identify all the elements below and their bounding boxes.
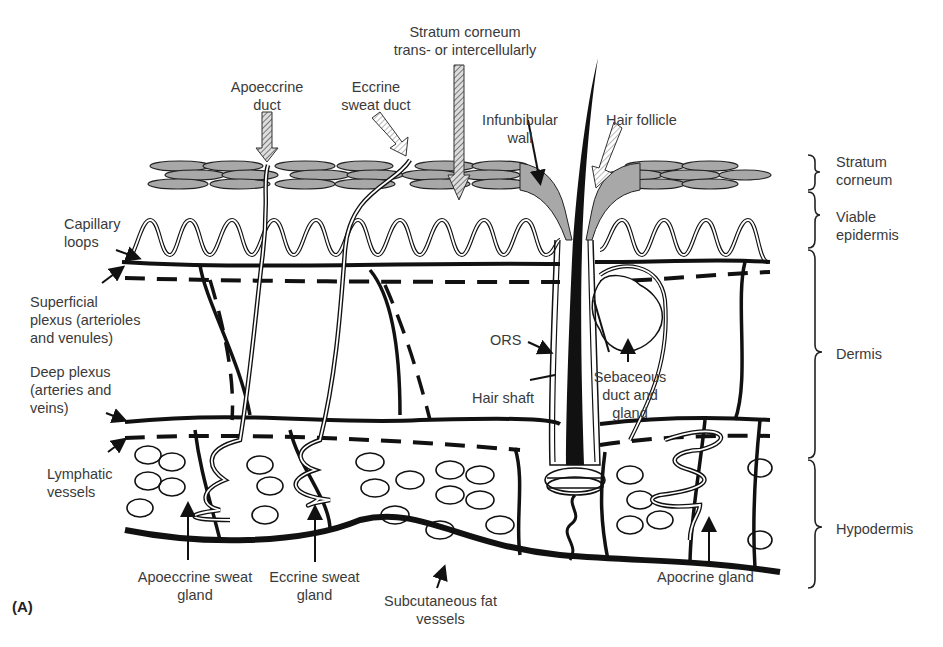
layer-dermis: Dermis: [836, 345, 882, 363]
skin-diagram-art: [0, 0, 943, 647]
label-stratum-corneum-route: Stratum corneum trans- or intercellularl…: [370, 23, 560, 59]
eccrine-duct-arrow: [372, 112, 408, 156]
label-eccrine-sweat-gland: Eccrine sweat gland: [262, 568, 367, 604]
label-apoeccrine-duct: Apoeccrine duct: [222, 78, 312, 114]
layer-viable-epidermis: Viable epidermis: [836, 208, 899, 244]
label-superficial-plexus: Superficial plexus (arterioles and venul…: [30, 293, 140, 347]
infundibular-wall-left: [520, 163, 572, 240]
stratum-corneum-arrow: [448, 65, 470, 200]
label-deep-plexus: Deep plexus (arteries and veins): [30, 363, 111, 417]
hair-bulb: [545, 468, 605, 495]
layer-braces: [808, 155, 822, 588]
label-ors: ORS: [490, 331, 521, 349]
label-subcutaneous-fat-vessels: Subcutaneous fat vessels: [378, 592, 503, 628]
label-lymphatic-vessels: Lymphatic vessels: [47, 465, 113, 501]
label-capillary-loops: Capillary loops: [64, 215, 120, 251]
label-eccrine-sweat-duct: Eccrine sweat duct: [330, 78, 422, 114]
apoeccrine-duct-arrow: [256, 112, 278, 162]
superficial-plexus: [122, 260, 770, 265]
layer-hypodermis: Hypodermis: [836, 520, 913, 538]
label-apocrine-gland: Apocrine gland: [657, 568, 754, 586]
sebaceous-gland: [592, 276, 662, 352]
label-apoeccrine-sweat-gland: Apoeccrine sweat gland: [130, 568, 260, 604]
epidermal-ridges: [125, 220, 768, 262]
layer-stratum-corneum: Stratum corneum: [836, 153, 892, 189]
label-hair-follicle: Hair follicle: [606, 111, 677, 129]
label-hair-shaft: Hair shaft: [472, 389, 534, 407]
superficial-lymphatic: [125, 272, 770, 282]
panel-label: (A): [12, 598, 33, 615]
label-infundibular-wall: Infunbibular wall: [474, 111, 566, 147]
label-sebaceous-duct-gland: Sebaceous duct and gland: [585, 368, 675, 422]
